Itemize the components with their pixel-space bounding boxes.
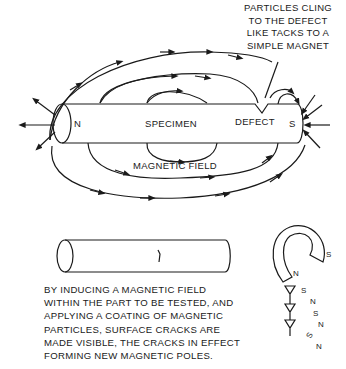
tack-chain (285, 286, 295, 336)
specimen-label: SPECIMEN (145, 118, 197, 129)
tack-pole-6: N (316, 342, 322, 351)
horseshoe-pole-n: N (293, 269, 299, 278)
defect-label: DEFECT (235, 116, 275, 127)
callout-leader (265, 62, 278, 98)
horseshoe-pole-s: S (326, 250, 331, 259)
specimen-end-n (53, 104, 71, 143)
south-pole-label: S (289, 118, 296, 129)
tack-pole-4: N (318, 320, 324, 329)
crack-mark (158, 250, 160, 262)
magnetic-field-label: MAGNETIC FIELD (133, 160, 217, 171)
callout-text: PARTICLES CLING TO THE DEFECT LIKE TACKS… (232, 2, 344, 52)
tack-pole-1: S (301, 286, 306, 295)
north-pole-label: N (74, 118, 81, 129)
tack-pole-3: S (313, 309, 318, 318)
field-line-bottom-outer (52, 145, 305, 198)
caption-text: BY INDUCING A MAGNETIC FIELD WITHIN THE … (44, 283, 240, 362)
tack-pole-2: N (310, 297, 316, 306)
cylinder (65, 240, 230, 272)
